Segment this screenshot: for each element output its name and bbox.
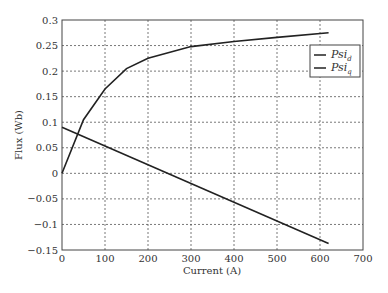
x-tick-label: 200: [138, 253, 157, 264]
x-axis-ticks: 0100200300400500600700: [59, 253, 373, 264]
x-tick-label: 100: [95, 253, 114, 264]
legend: Psid Psiq: [310, 45, 360, 77]
x-tick-label: 0: [59, 253, 65, 264]
y-axis-label: Flux (Wb): [13, 110, 24, 160]
y-axis-ticks: 0.30.250.20.150.10.050−0.05−0.1−0.15: [27, 15, 58, 256]
x-tick-label: 700: [353, 253, 372, 264]
y-tick-label: −0.05: [27, 193, 58, 204]
y-tick-label: −0.15: [27, 245, 58, 256]
y-tick-label: 0.2: [42, 66, 58, 77]
y-tick-label: 0.3: [42, 15, 58, 26]
y-tick-label: −0.1: [34, 219, 58, 230]
y-tick-label: 0.25: [36, 40, 58, 51]
data-series: [62, 33, 329, 244]
x-tick-label: 500: [267, 253, 286, 264]
x-axis-label: Current (A): [183, 265, 241, 276]
x-tick-label: 600: [310, 253, 329, 264]
y-tick-label: 0: [52, 168, 58, 179]
series-line-psi-q: [62, 127, 329, 243]
chart-canvas: 0.30.250.20.150.10.050−0.05−0.1−0.15 010…: [0, 0, 388, 293]
series-line-psi-d: [62, 33, 329, 174]
y-tick-label: 0.1: [42, 117, 58, 128]
y-tick-label: 0.15: [36, 91, 58, 102]
y-tick-label: 0.05: [36, 142, 58, 153]
x-tick-label: 300: [181, 253, 200, 264]
x-tick-label: 400: [224, 253, 243, 264]
